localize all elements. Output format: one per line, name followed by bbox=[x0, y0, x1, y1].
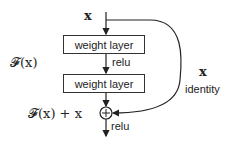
residual-function-label: 𝓕(x) bbox=[10, 55, 37, 71]
weight-layer-1-label: weight layer bbox=[75, 39, 134, 51]
shortcut-x-label: x bbox=[199, 64, 207, 79]
weight-layer-2-label: weight layer bbox=[75, 78, 134, 90]
weight-layer-2: weight layer bbox=[63, 74, 145, 93]
input-x-label: x bbox=[84, 8, 92, 23]
relu-label-output: relu bbox=[111, 120, 129, 132]
weight-layer-1: weight layer bbox=[63, 35, 145, 54]
relu-label-1: relu bbox=[112, 56, 130, 68]
identity-label: identity bbox=[185, 83, 220, 95]
sum-output-label: 𝓕(x) + x bbox=[28, 106, 82, 122]
